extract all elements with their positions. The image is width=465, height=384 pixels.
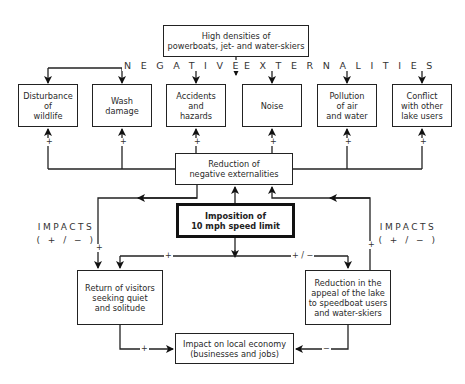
appeal-reduction-label: Reduction in the appeal of the lake to s… [309, 278, 388, 318]
plus-sign-policy-return: + [164, 252, 173, 260]
externality-label: Noise [261, 101, 284, 111]
plus-sign-return-economy: + [140, 345, 149, 353]
reduction-box: Reduction of negative externalities [175, 153, 293, 185]
externality-label: Pollution of air and water [326, 91, 367, 121]
minus-sign-appeal-economy: − [322, 345, 331, 353]
externality-box-wildlife: Disturbance of wildlife [18, 84, 78, 127]
plus-sign: + [193, 138, 202, 146]
high-density-label: High densities of powerboats, jet- and w… [167, 31, 304, 51]
return-visitors-label: Return of visitors seeking quiet and sol… [85, 283, 155, 313]
externality-box-accidents: Accidents and hazards [166, 84, 226, 127]
plus-sign: + [95, 244, 104, 252]
externality-box-pollution: Pollution of air and water [317, 84, 377, 127]
policy-label: Imposition of 10 mph speed limit [191, 211, 280, 231]
plus-sign: + [119, 138, 128, 146]
plus-sign: + [419, 138, 428, 146]
externality-label: Accidents and hazards [176, 91, 216, 121]
return-visitors-box: Return of visitors seeking quiet and sol… [77, 270, 163, 325]
externality-box-noise: Noise [242, 84, 302, 127]
externality-label: Conflict with other lake users [401, 91, 443, 121]
plus-sign: + [45, 138, 54, 146]
banner-externalities: EXTERNALITIES [242, 60, 444, 71]
reduction-label: Reduction of negative externalities [189, 159, 278, 179]
local-economy-box: Impact on local economy (businesses and … [175, 333, 294, 364]
externality-box-wash: Wash damage [92, 84, 152, 127]
connector-lines [0, 0, 465, 384]
plus-sign: + [367, 241, 376, 249]
local-economy-label: Impact on local economy (businesses and … [183, 339, 286, 359]
plus-sign: + [344, 138, 353, 146]
impacts-right-label: IMPACTS ( + / − ) [373, 221, 443, 247]
plus-sign: + [269, 138, 278, 146]
plus-minus-sign-policy-appeal: + / − [291, 252, 314, 260]
policy-box: Imposition of 10 mph speed limit [176, 203, 295, 238]
externality-label: Wash damage [105, 96, 138, 116]
appeal-reduction-box: Reduction in the appeal of the lake to s… [305, 270, 391, 325]
externality-box-conflict: Conflict with other lake users [392, 84, 452, 127]
high-density-box: High densities of powerboats, jet- and w… [163, 25, 309, 57]
impacts-left-label: IMPACTS ( + / − ) [34, 221, 98, 247]
banner-negative: NEGATIVE [122, 60, 250, 71]
externality-label: Disturbance of wildlife [23, 91, 73, 121]
